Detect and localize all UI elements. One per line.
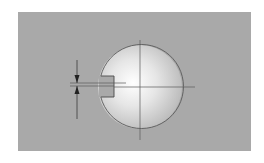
slot-outline	[101, 76, 114, 97]
sphere-diagram	[0, 0, 264, 163]
dimension-marker	[75, 60, 80, 119]
arrow-up-icon	[75, 86, 80, 94]
arrow-down-icon	[75, 75, 80, 83]
